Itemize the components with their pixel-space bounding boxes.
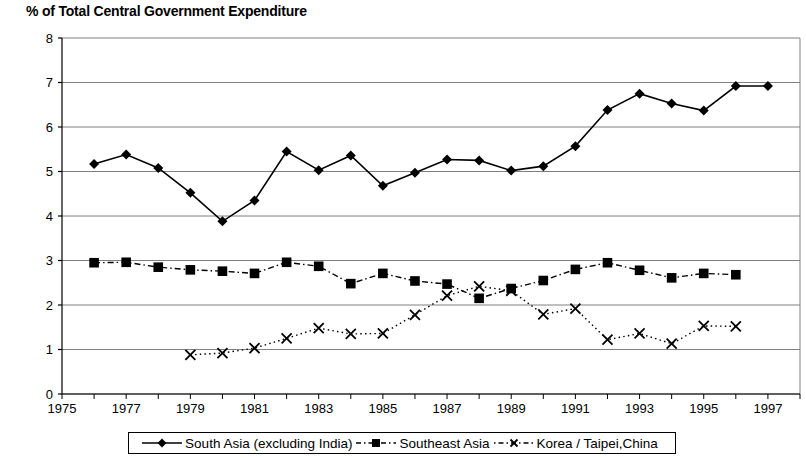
series-line [94,86,768,221]
data-point-x [314,323,324,333]
data-point-square [442,279,452,289]
data-point-x [538,309,548,319]
legend-label-korea-taipei: Korea / Taipei,China [534,436,662,451]
data-point-x [667,339,677,349]
y-axis-tick-label: 1 [46,342,53,357]
data-point-x [474,281,484,291]
y-axis-tick-label: 0 [46,387,53,402]
gridlines [62,38,800,394]
y-axis-tick-label: 7 [46,75,53,90]
y-axis-tick-label: 2 [46,298,53,313]
series-square [89,257,740,303]
data-point-square [346,279,356,289]
x-axis-tick-label: 1987 [433,401,462,416]
series-line [190,286,735,355]
data-point-square [410,276,420,286]
legend-entry-korea-taipei: Korea / Taipei,China [494,436,662,451]
data-point-x [731,321,741,331]
data-point-square [89,258,99,268]
data-point-diamond [250,195,260,205]
y-axis-tick-label: 4 [46,209,53,224]
plot-area: 012345678 197519771979198119831985198719… [0,0,806,458]
data-point-square [153,262,163,272]
data-point-x [282,333,292,343]
x-axis-tick-label: 1981 [240,401,269,416]
x-axis-tick-label: 1991 [561,401,590,416]
x-axis-tick-label: 1989 [497,401,526,416]
legend-entry-southeast-asia: Southeast Asia [356,436,493,451]
square-marker-icon [356,436,396,450]
data-point-square [282,257,292,267]
x-axis-tick-label: 1983 [304,401,333,416]
series-diamond [89,81,773,226]
data-point-diamond [667,98,677,108]
legend-label-southeast-asia: Southeast Asia [396,436,493,451]
data-point-x [442,291,452,301]
x-axis-tick-label: 1975 [48,401,77,416]
data-point-diamond [506,166,516,176]
x-axis-tick-label: 1993 [625,401,654,416]
y-axis: 012345678 [46,31,62,402]
x-axis: 1975197719791981198319851987198919911993… [48,394,800,416]
data-point-diamond [282,146,292,156]
data-point-square [186,265,196,275]
data-point-diamond [538,161,548,171]
data-point-square [474,294,484,304]
data-point-square [571,265,581,275]
data-point-x [410,310,420,320]
x-axis-tick-label: 1985 [368,401,397,416]
legend-label-south-asia: South Asia (excluding India) [182,436,356,451]
data-point-square [539,276,549,286]
y-axis-tick-label: 6 [46,120,53,135]
data-point-x [602,335,612,345]
x-axis-tick-label: 1995 [689,401,718,416]
data-point-square [731,270,741,280]
chart-container: % of Total Central Government Expenditur… [0,0,806,458]
data-point-square [250,269,260,279]
data-point-diamond [410,168,420,178]
y-axis-tick-label: 5 [46,164,53,179]
data-point-square [667,273,677,283]
data-point-diamond [314,165,324,175]
data-point-x [635,328,645,338]
series-x [185,281,740,360]
data-point-diamond [635,89,645,99]
x-marker-icon [494,436,534,450]
data-point-square [699,269,709,279]
diamond-marker-icon [142,436,182,450]
data-point-square [218,266,228,276]
data-point-square [121,257,131,267]
legend-entry-south-asia: South Asia (excluding India) [142,436,356,451]
data-point-diamond [474,155,484,165]
y-axis-tick-label: 3 [46,253,53,268]
data-point-square [314,261,324,271]
chart-legend: South Asia (excluding India) Southeast A… [128,432,676,454]
x-axis-tick-label: 1977 [112,401,141,416]
data-point-x [185,350,195,360]
data-point-square [635,265,645,275]
x-axis-tick-label: 1979 [176,401,205,416]
data-series-layer [89,81,773,360]
x-axis-tick-label: 1997 [753,401,782,416]
data-point-diamond [442,154,452,164]
data-point-diamond [121,150,131,160]
y-axis-tick-label: 8 [46,31,53,46]
data-point-diamond [89,159,99,169]
data-point-square [378,269,388,279]
data-point-square [603,258,613,268]
